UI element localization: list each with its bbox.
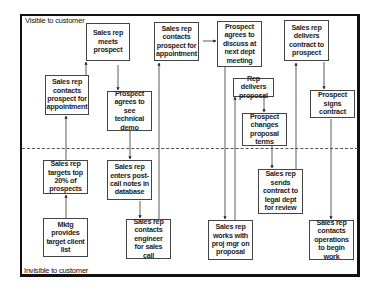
- step-contact-appt-1: Sales rep contacts prospect for appointm…: [45, 75, 89, 115]
- step-target-top: Sales rep targets top 20% of prospects: [43, 160, 88, 194]
- step-mktg-list: Mktg provides target client list: [43, 218, 88, 257]
- step-meets-prospect: Sales rep meets prospect: [86, 23, 130, 61]
- step-contacts-engineer: Sales rep contacts engineer for sales ca…: [126, 219, 171, 259]
- step-contact-appt-2: Sales rep contacts prospect for appointm…: [154, 22, 199, 61]
- invisible-zone-label: Invisible to customer: [24, 266, 88, 275]
- step-sends-legal: Sales rep sends contract to legal dept f…: [258, 169, 303, 214]
- step-changes-terms: Prospect changes proposal terms: [242, 113, 287, 146]
- step-signs-contract: Prospect signs contract: [310, 90, 355, 118]
- visible-zone-label: Visible to customer: [25, 16, 84, 25]
- step-agrees-demo: Prospect agrees to see technical demo: [107, 91, 152, 131]
- step-delivers-proposal: Rep delivers proposal: [233, 78, 274, 97]
- step-delivers-contract: Sales rep delivers contract to prospect: [284, 20, 329, 61]
- step-contacts-operations: Sales rep contacts operations to begin w…: [309, 220, 354, 260]
- line-of-visibility: [22, 148, 358, 149]
- step-post-call-notes: Sales rep enters post-call notes in data…: [107, 160, 152, 200]
- step-agrees-discuss: Prospect agrees to discuss at next dept …: [217, 21, 262, 67]
- step-works-proj-mgr: Sales rep works with proj mgr on proposa…: [208, 220, 253, 260]
